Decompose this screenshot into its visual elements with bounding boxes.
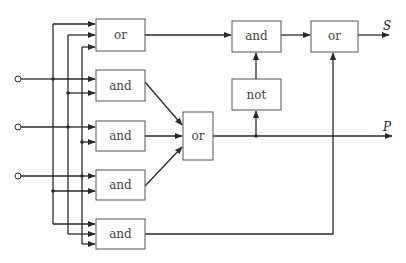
gate-or-output: or <box>311 21 358 52</box>
gate-not: not <box>232 79 281 110</box>
gate-label: and <box>109 79 132 93</box>
input-terminals <box>15 76 21 179</box>
gate-and-2: and <box>96 121 145 151</box>
output-label-s: S <box>383 19 391 33</box>
gate-or-top: or <box>96 19 145 51</box>
gate-label: and <box>109 129 132 143</box>
gate-label: or <box>114 28 127 42</box>
gate-label: and <box>245 29 268 43</box>
gate-label: not <box>247 88 267 102</box>
gate-label: and <box>109 178 132 192</box>
output-label-p: P <box>382 120 392 134</box>
gate-or-middle: or <box>183 112 213 160</box>
gate-label: and <box>109 227 132 241</box>
gate-and-top: and <box>232 21 281 52</box>
gate-and-bottom: and <box>96 219 145 249</box>
input-terminal-1 <box>15 76 21 82</box>
gate-and-3: and <box>96 170 145 200</box>
gate-label: or <box>192 129 205 143</box>
logic-circuit-diagram: or and and and and or not and or S P <box>0 0 406 263</box>
input-terminal-3 <box>15 173 21 179</box>
gate-and-1: and <box>96 70 145 101</box>
input-terminal-2 <box>15 124 21 130</box>
gate-label: or <box>328 29 341 43</box>
